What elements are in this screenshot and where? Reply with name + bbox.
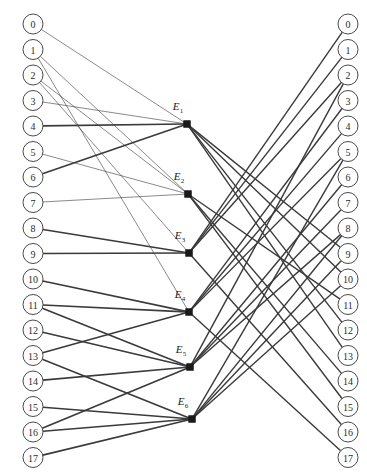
output-node-label: 17 <box>343 453 353 464</box>
input-node-9[interactable]: 9 <box>23 244 43 264</box>
input-node-14[interactable]: 14 <box>23 371 43 391</box>
output-node-9[interactable]: 9 <box>338 244 358 264</box>
input-node-label: 4 <box>31 121 36 132</box>
output-node-16[interactable]: 16 <box>338 422 358 442</box>
edge-right-E6-5 <box>194 160 343 416</box>
relay-node-label: E6 <box>177 395 189 410</box>
input-node-label: 11 <box>28 300 38 311</box>
input-node-12[interactable]: 12 <box>23 320 43 340</box>
output-node-label: 16 <box>343 427 353 438</box>
input-node-label: 9 <box>31 249 36 260</box>
output-node-label: 5 <box>346 147 351 158</box>
output-node-8[interactable]: 8 <box>338 218 358 238</box>
input-node-label: 14 <box>28 376 38 387</box>
output-node-label: 11 <box>343 300 353 311</box>
edge-left-0-E1 <box>41 29 184 122</box>
output-node-label: 10 <box>343 274 353 285</box>
input-node-4[interactable]: 4 <box>23 116 43 136</box>
input-node-label: 5 <box>31 147 36 158</box>
output-node-label: 2 <box>346 70 351 81</box>
input-node-11[interactable]: 11 <box>23 295 43 315</box>
relay-node-marker[interactable] <box>186 309 192 315</box>
edge-left-16-E5 <box>42 368 187 428</box>
input-node-7[interactable]: 7 <box>23 193 43 213</box>
edge-left-14-E5 <box>43 367 187 380</box>
left-nodes-group: 01234567891011121314151617 <box>23 14 43 468</box>
input-node-1[interactable]: 1 <box>23 40 43 60</box>
input-node-label: 7 <box>31 198 36 209</box>
edge-left-13-E4 <box>43 313 186 353</box>
output-node-6[interactable]: 6 <box>338 167 358 187</box>
input-node-label: 3 <box>31 96 36 107</box>
edge-left-10-E4 <box>43 281 186 311</box>
output-node-11[interactable]: 11 <box>338 295 358 315</box>
output-node-4[interactable]: 4 <box>338 116 358 136</box>
input-node-10[interactable]: 10 <box>23 269 43 289</box>
output-node-label: 7 <box>346 198 351 209</box>
input-node-label: 12 <box>28 325 38 336</box>
output-node-label: 15 <box>343 402 353 413</box>
output-node-2[interactable]: 2 <box>338 65 358 85</box>
output-node-13[interactable]: 13 <box>338 346 358 366</box>
right-nodes-group: 01234567891011121314151617 <box>338 14 358 468</box>
input-node-label: 10 <box>28 274 38 285</box>
output-node-17[interactable]: 17 <box>338 448 358 468</box>
input-node-13[interactable]: 13 <box>23 346 43 366</box>
graph-canvas: 01234567891011121314151617 0123456789101… <box>0 0 367 474</box>
input-node-16[interactable]: 16 <box>23 422 43 442</box>
input-node-2[interactable]: 2 <box>23 65 43 85</box>
output-node-label: 6 <box>346 172 351 183</box>
relay-node-marker[interactable] <box>184 121 190 127</box>
input-node-0[interactable]: 0 <box>23 14 43 34</box>
left-edges-group <box>38 29 189 455</box>
output-node-label: 1 <box>346 45 351 56</box>
input-node-3[interactable]: 3 <box>23 91 43 111</box>
right-edges-group <box>189 32 344 451</box>
input-node-label: 6 <box>31 172 36 183</box>
relay-node-marker[interactable] <box>185 191 191 197</box>
input-node-label: 1 <box>31 45 36 56</box>
output-node-label: 9 <box>346 249 351 260</box>
input-node-label: 13 <box>28 351 38 362</box>
edge-right-E3-0 <box>191 32 343 250</box>
relay-node-marker[interactable] <box>186 250 192 256</box>
output-node-3[interactable]: 3 <box>338 91 358 111</box>
output-node-12[interactable]: 12 <box>338 320 358 340</box>
relay-node-label: E5 <box>175 343 187 358</box>
output-node-label: 0 <box>346 19 351 30</box>
input-node-5[interactable]: 5 <box>23 142 43 162</box>
edge-left-8-E3 <box>43 230 186 253</box>
edge-left-3-E1 <box>43 102 184 124</box>
input-node-label: 0 <box>31 19 36 30</box>
output-node-14[interactable]: 14 <box>338 371 358 391</box>
edge-right-E1-10 <box>189 126 341 272</box>
relay-node-label: E3 <box>174 229 186 244</box>
output-node-7[interactable]: 7 <box>338 193 358 213</box>
output-node-label: 13 <box>343 351 353 362</box>
input-node-label: 2 <box>31 70 36 81</box>
relay-node-E2[interactable]: E2 <box>173 170 192 197</box>
edge-right-E6-10 <box>194 286 340 417</box>
relay-node-marker[interactable] <box>189 416 195 422</box>
output-node-5[interactable]: 5 <box>338 142 358 162</box>
output-node-0[interactable]: 0 <box>338 14 358 34</box>
input-node-8[interactable]: 8 <box>23 218 43 238</box>
edge-left-5-E2 <box>43 154 185 193</box>
input-node-6[interactable]: 6 <box>23 167 43 187</box>
output-node-10[interactable]: 10 <box>338 269 358 289</box>
output-node-label: 12 <box>343 325 353 336</box>
relay-node-marker[interactable] <box>187 364 193 370</box>
output-node-15[interactable]: 15 <box>338 397 358 417</box>
input-node-15[interactable]: 15 <box>23 397 43 417</box>
input-node-17[interactable]: 17 <box>23 448 43 468</box>
output-node-label: 4 <box>346 121 351 132</box>
bipartite-diagram: 01234567891011121314151617 0123456789101… <box>0 0 367 474</box>
edge-left-2-E2 <box>41 81 186 192</box>
output-node-1[interactable]: 1 <box>338 40 358 60</box>
edge-left-1-E4 <box>38 58 187 309</box>
relay-node-label: E1 <box>172 100 184 115</box>
output-node-label: 14 <box>343 376 353 387</box>
input-node-label: 16 <box>28 427 38 438</box>
edge-right-E4-3 <box>191 108 342 309</box>
relay-node-label: E4 <box>174 288 186 303</box>
